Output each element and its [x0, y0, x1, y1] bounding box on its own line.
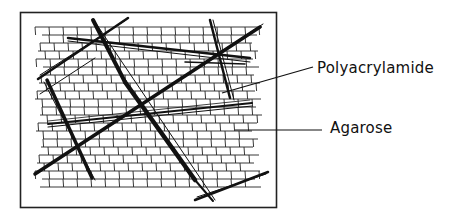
polyacrylamide-mesh [35, 27, 262, 187]
gel-diagram [0, 0, 449, 221]
polyacrylamide-leader-line [222, 67, 313, 93]
agarose-label: Agarose [330, 119, 392, 137]
polyacrylamide-label: Polyacrylamide [317, 59, 434, 77]
